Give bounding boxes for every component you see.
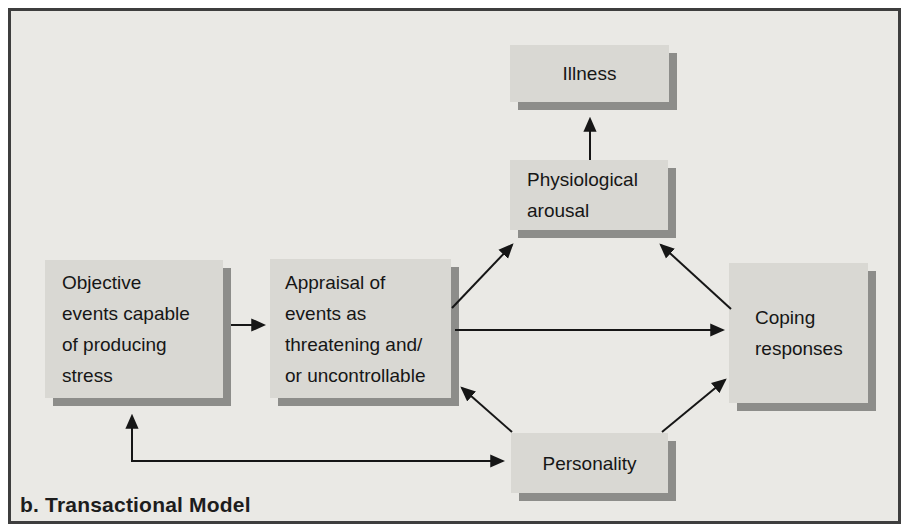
- node-illness: Illness: [510, 45, 669, 102]
- node-objective-events: Objective events capable of producing st…: [45, 260, 223, 398]
- node-personality: Personality: [511, 433, 668, 493]
- node-physiological-arousal-label: Physiological arousal: [527, 164, 638, 226]
- node-coping-responses-label: Coping responses: [755, 302, 843, 364]
- node-illness-label: Illness: [563, 58, 617, 89]
- node-appraisal: Appraisal of events as threatening and/ …: [270, 259, 451, 398]
- figure-caption: b. Transactional Model: [20, 493, 251, 517]
- node-physiological-arousal: Physiological arousal: [510, 160, 668, 230]
- node-appraisal-label: Appraisal of events as threatening and/ …: [285, 267, 425, 391]
- node-personality-label: Personality: [543, 448, 637, 479]
- node-objective-events-label: Objective events capable of producing st…: [62, 267, 190, 391]
- figure-page: Illness Physiological arousal Objective …: [0, 0, 916, 532]
- node-coping-responses: Coping responses: [729, 263, 868, 403]
